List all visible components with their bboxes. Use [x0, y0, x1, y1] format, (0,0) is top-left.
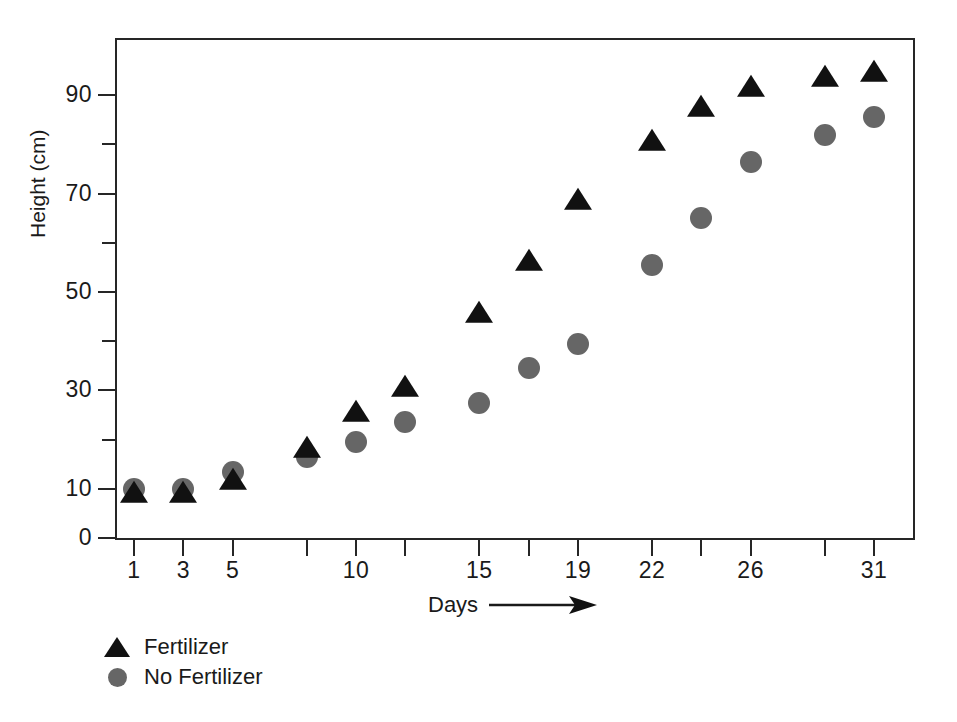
- data-point-triangle: [465, 301, 493, 323]
- scatter-chart-figure: Height (cm) 01030507090 135101519222631 …: [0, 0, 957, 722]
- data-point-circle: [641, 254, 663, 276]
- data-point-circle: [740, 151, 762, 173]
- data-point-circle: [863, 106, 885, 128]
- plot-frame: [115, 38, 915, 540]
- legend-swatch-shape: [104, 637, 130, 657]
- data-point-triangle: [120, 481, 148, 503]
- y-axis-tick: [98, 193, 115, 195]
- data-point-triangle: [293, 436, 321, 458]
- circle-marker-icon: [104, 668, 130, 687]
- x-axis-tick-label: 22: [639, 559, 666, 582]
- x-axis-tick-label: 19: [565, 559, 592, 582]
- data-point-triangle: [219, 468, 247, 490]
- data-point-triangle: [687, 94, 715, 116]
- x-axis-tick: [478, 540, 480, 556]
- y-axis-tick-label: 0: [52, 526, 92, 549]
- x-axis-tick: [306, 540, 308, 556]
- x-axis-tick: [528, 540, 530, 556]
- x-axis-tick: [133, 540, 135, 556]
- right-arrow-icon: [489, 595, 597, 615]
- legend-item-label: Fertilizer: [144, 634, 228, 660]
- data-point-triangle: [638, 129, 666, 151]
- y-axis-tick: [98, 389, 115, 391]
- x-axis-tick-label: 5: [226, 559, 239, 582]
- x-axis-tick-label: 1: [127, 559, 140, 582]
- data-point-circle: [814, 124, 836, 146]
- x-axis-tick-label: 10: [343, 559, 370, 582]
- data-point-triangle: [391, 375, 419, 397]
- y-axis-tick-label: 70: [52, 182, 92, 205]
- data-point-triangle: [169, 481, 197, 503]
- x-axis-tick: [232, 540, 234, 556]
- y-axis-tick-label: 90: [52, 83, 92, 106]
- legend-item: Fertilizer: [104, 632, 263, 662]
- x-axis-tick-label: 15: [466, 559, 493, 582]
- x-axis-tick: [404, 540, 406, 556]
- y-axis-minor-tick: [102, 143, 115, 145]
- y-axis-tick-label: 50: [52, 280, 92, 303]
- data-point-triangle: [860, 60, 888, 82]
- y-axis-tick: [98, 291, 115, 293]
- legend-item-label: No Fertilizer: [144, 664, 263, 690]
- legend-item: No Fertilizer: [104, 662, 263, 692]
- x-axis-tick-label: 31: [861, 559, 888, 582]
- y-axis-tick: [98, 537, 115, 539]
- triangle-marker-icon: [104, 637, 130, 657]
- y-axis-title: Height (cm): [26, 129, 50, 238]
- x-axis-tick: [355, 540, 357, 556]
- chart-legend: FertilizerNo Fertilizer: [104, 632, 263, 692]
- data-point-circle: [690, 207, 712, 229]
- x-axis-title-group: Days: [428, 592, 597, 618]
- data-point-triangle: [564, 188, 592, 210]
- data-point-circle: [345, 431, 367, 453]
- x-axis-tick-label: 26: [737, 559, 764, 582]
- x-axis-tick-label: 3: [177, 559, 190, 582]
- y-axis-tick: [98, 488, 115, 490]
- y-axis-minor-tick: [102, 439, 115, 441]
- y-axis-tick-label: 10: [52, 477, 92, 500]
- y-axis-tick-label: 30: [52, 378, 92, 401]
- data-point-triangle: [515, 249, 543, 271]
- x-axis-tick: [750, 540, 752, 556]
- data-point-circle: [518, 357, 540, 379]
- legend-swatch-shape: [108, 668, 127, 687]
- x-axis-tick: [577, 540, 579, 556]
- x-axis-tick: [873, 540, 875, 556]
- x-axis-title: Days: [428, 592, 478, 618]
- data-point-circle: [468, 392, 490, 414]
- data-point-triangle: [737, 75, 765, 97]
- y-axis-minor-tick: [102, 340, 115, 342]
- x-axis-tick: [651, 540, 653, 556]
- data-point-triangle: [342, 399, 370, 421]
- data-point-circle: [394, 411, 416, 433]
- y-axis-tick: [98, 94, 115, 96]
- x-axis-tick: [824, 540, 826, 556]
- data-point-triangle: [811, 65, 839, 87]
- data-point-circle: [567, 333, 589, 355]
- plot-area: [117, 40, 913, 538]
- x-axis-tick: [182, 540, 184, 556]
- x-axis-tick: [700, 540, 702, 556]
- y-axis-minor-tick: [102, 242, 115, 244]
